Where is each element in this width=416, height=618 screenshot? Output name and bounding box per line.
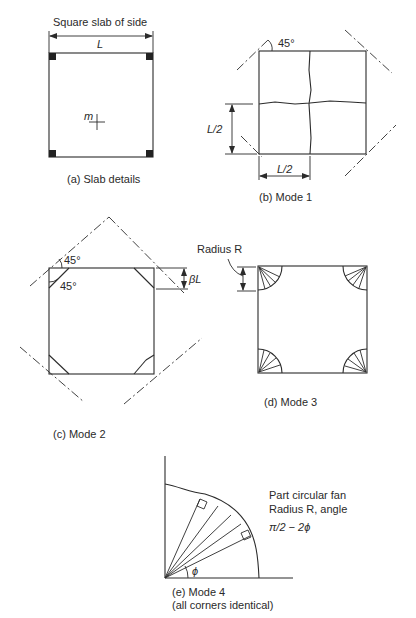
panel-b-mode-1: 45° L/2 L/2 (b) Mode 1 xyxy=(207,30,396,203)
horizontal-dim-label: L/2 xyxy=(277,163,292,175)
corner-column-tl xyxy=(49,53,56,60)
fan-ray-4 xyxy=(165,524,241,578)
angle-arc-side xyxy=(49,279,58,282)
corner-fan-tl xyxy=(258,266,282,290)
angle-arc xyxy=(268,40,272,51)
corner-fan-bl xyxy=(258,349,282,373)
radius-leader xyxy=(228,259,243,276)
corner-yield-line-tr xyxy=(134,268,154,288)
rotation-axis-tr xyxy=(109,217,184,293)
corner-fan-br xyxy=(343,349,367,373)
moment-label: m xyxy=(84,110,93,122)
corner-column-tr xyxy=(146,53,153,60)
rotation-axis-tl xyxy=(237,40,268,70)
angle-top-label: 45° xyxy=(64,254,81,266)
caption-a: (a) Slab details xyxy=(67,173,141,185)
panel-e-mode-4: ϕ Part circular fan Radius R, angle π/2 … xyxy=(165,456,347,611)
slab-outline xyxy=(49,53,153,157)
rotation-axis-br xyxy=(124,338,202,404)
fan-ray-5 xyxy=(165,536,250,578)
radius-label: Radius R xyxy=(197,243,242,255)
panel-c-mode-2: 45° 45° βL (c) Mode 2 xyxy=(20,217,202,440)
rotation-axis-tl xyxy=(30,217,109,286)
fan-note-line2: Radius R, angle xyxy=(269,503,347,515)
caption-b: (b) Mode 1 xyxy=(259,191,312,203)
angle-label: 45° xyxy=(278,37,295,49)
corner-yield-line-br-2 xyxy=(146,355,154,360)
slab-title: Square slab of side xyxy=(53,16,147,28)
phi-label: ϕ xyxy=(192,565,198,577)
caption-e-line1: (e) Mode 4 xyxy=(172,586,225,598)
panel-d-mode-3: Radius R (d) Mode 3 xyxy=(197,243,367,408)
yield-line-figure: Square slab of side L m (a) Slab details… xyxy=(0,0,416,618)
caption-e-line2: (all corners identical) xyxy=(172,599,273,611)
corner-yield-line-br xyxy=(134,360,146,374)
corner-column-br xyxy=(146,150,153,157)
corner-yield-line-bl xyxy=(49,355,69,374)
angle-side-label: 45° xyxy=(60,280,77,292)
fan-note-formula: π/2 − 2ϕ xyxy=(269,521,310,533)
yield-line-horizontal xyxy=(259,101,366,104)
right-angle-mark-top xyxy=(197,499,207,509)
corner-fan-tr xyxy=(343,266,367,290)
right-angle-mark-bottom xyxy=(241,530,251,540)
vertical-dim-label: L/2 xyxy=(207,123,222,135)
rotation-axis-br xyxy=(345,125,396,176)
beta-dim-label: βL xyxy=(188,273,201,285)
caption-c: (c) Mode 2 xyxy=(53,428,106,440)
corner-column-bl xyxy=(49,150,56,157)
fan-note-line1: Part circular fan xyxy=(269,489,346,501)
panel-a-slab-details: Square slab of side L m (a) Slab details xyxy=(49,16,153,185)
caption-d: (d) Mode 3 xyxy=(264,396,317,408)
side-label: L xyxy=(97,38,103,50)
